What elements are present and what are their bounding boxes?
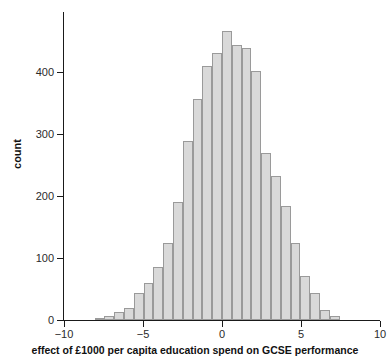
x-tick-label: 0 — [192, 329, 252, 340]
histogram-bar — [183, 141, 193, 320]
histogram-bar — [163, 243, 173, 320]
x-tick-mark — [143, 321, 144, 327]
x-tick-mark — [301, 321, 302, 327]
histogram-bar — [261, 153, 271, 320]
x-tick-label: −10 — [34, 329, 94, 340]
histogram-bars — [64, 12, 380, 320]
histogram-bar — [281, 206, 291, 320]
histogram-bar — [104, 316, 114, 320]
y-tick-mark — [57, 258, 63, 259]
y-tick-label: 100 — [14, 253, 54, 264]
y-tick-label: 400 — [14, 67, 54, 78]
histogram-bar — [251, 71, 261, 320]
histogram-bar — [95, 318, 105, 320]
histogram-bar — [320, 310, 330, 320]
x-tick-mark — [380, 321, 381, 327]
histogram-bar — [242, 48, 252, 320]
histogram-bar — [202, 66, 212, 320]
histogram-bar — [300, 276, 310, 320]
histogram-bar — [144, 283, 154, 320]
histogram-bar — [232, 45, 242, 320]
histogram-bar — [153, 267, 163, 320]
histogram-bar — [124, 308, 134, 320]
x-tick-label: 5 — [271, 329, 331, 340]
histogram-bar — [291, 243, 301, 320]
x-tick-mark — [64, 321, 65, 327]
y-tick-mark — [57, 320, 63, 321]
histogram-bar — [330, 316, 340, 320]
histogram-bar — [173, 202, 183, 320]
x-axis-title: effect of £1000 per capita education spe… — [0, 344, 390, 356]
histogram-bar — [134, 293, 144, 320]
histogram-bar — [222, 31, 232, 320]
x-tick-mark — [222, 321, 223, 327]
histogram-bar — [310, 293, 320, 320]
histogram-chart: 0100200300400 −10−50510 count effect of … — [0, 0, 390, 361]
y-tick-mark — [57, 72, 63, 73]
y-tick-mark — [57, 134, 63, 135]
y-tick-label: 0 — [14, 315, 54, 326]
histogram-bar — [114, 312, 124, 320]
y-axis-title: count — [11, 109, 23, 199]
histogram-bar — [212, 53, 222, 320]
x-tick-label: −5 — [113, 329, 173, 340]
histogram-bar — [193, 99, 203, 320]
x-tick-label: 10 — [350, 329, 390, 340]
y-tick-mark — [57, 196, 63, 197]
histogram-bar — [271, 176, 281, 320]
